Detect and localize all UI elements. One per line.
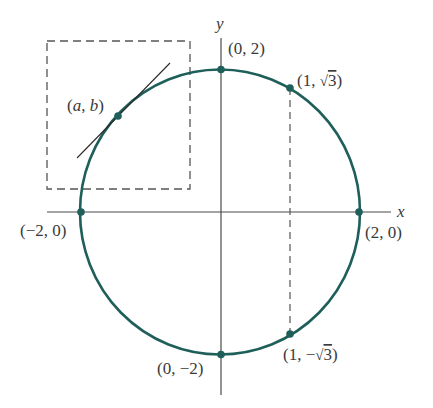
- label-upper-right-suffix: ): [336, 71, 342, 90]
- label-bottom: (0, −2): [157, 359, 203, 378]
- label-top: (0, 2): [228, 39, 265, 58]
- y-axis-label: y: [214, 14, 224, 33]
- label-left: (−2, 0): [20, 221, 66, 240]
- label-lower-right-root: 3: [323, 345, 332, 364]
- point-bottom: [217, 351, 225, 359]
- label-tangent-a: a: [73, 96, 82, 115]
- label-tangent-close: ): [98, 96, 104, 115]
- label-tangent-comma: ,: [81, 96, 90, 115]
- label-lower-right-prefix: (1, −: [283, 345, 315, 364]
- label-lower-right: (1, −√3): [283, 345, 338, 364]
- label-right: (2, 0): [365, 223, 402, 242]
- label-upper-right-prefix: (1,: [297, 71, 320, 90]
- label-tangent-point: (a, b): [67, 96, 104, 115]
- circle-diagram: y x (0, 2) (1, √3) (a, b) (−2, 0) (2, 0)…: [0, 0, 433, 408]
- label-upper-right: (1, √3): [297, 71, 342, 90]
- point-lower-right: [286, 330, 294, 338]
- point-tangent: [114, 112, 122, 120]
- label-upper-right-root: 3: [328, 71, 337, 90]
- point-upper-right: [286, 84, 294, 92]
- label-tangent-b: b: [90, 96, 99, 115]
- point-top: [217, 66, 225, 74]
- point-left: [77, 208, 85, 216]
- point-right: [355, 208, 363, 216]
- label-lower-right-suffix: ): [332, 345, 338, 364]
- x-axis-label: x: [396, 202, 405, 221]
